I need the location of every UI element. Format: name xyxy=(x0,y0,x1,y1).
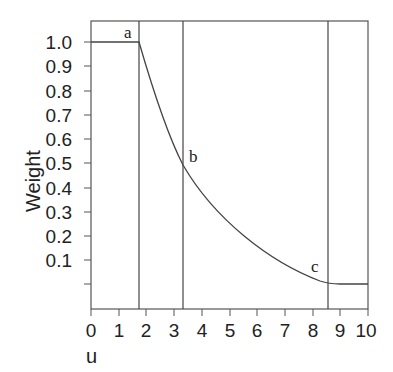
y-tick-label: 0.6 xyxy=(46,129,72,150)
x-tick-label: 3 xyxy=(169,320,180,341)
x-tick-label: 1 xyxy=(114,320,125,341)
x-tick-label: 2 xyxy=(141,320,152,341)
y-tick-label: 0.8 xyxy=(46,81,72,102)
x-tick-label: 8 xyxy=(308,320,319,341)
x-tick-label: 4 xyxy=(197,320,208,341)
y-tick-label: 0.1 xyxy=(46,250,72,271)
y-tick-label: 1.0 xyxy=(46,32,72,53)
y-tick-label: 0.5 xyxy=(46,153,72,174)
x-axis-title: u xyxy=(86,345,97,367)
x-tick-label: 6 xyxy=(252,320,263,341)
y-tick-label: 0.3 xyxy=(46,202,72,223)
y-axis: 1.0 0.9 0.8 0.7 0.6 0.5 0.4 0.3 0.2 0.1 … xyxy=(46,32,91,284)
x-tick-label: 9 xyxy=(335,320,346,341)
x-tick-label: 5 xyxy=(225,320,236,341)
x-tick-label: 0 xyxy=(86,320,97,341)
x-tick-label: 7 xyxy=(280,320,291,341)
point-label-c: c xyxy=(311,257,319,276)
x-axis: 0 1 2 3 4 5 6 7 8 9 10 xyxy=(86,309,377,341)
weight-curve xyxy=(91,42,368,284)
point-label-a: a xyxy=(124,23,132,42)
y-tick-label: 0.4 xyxy=(46,178,73,199)
y-tick-label: 0.9 xyxy=(46,56,72,77)
weight-chart: a b c 1.0 0.9 0.8 0.7 0.6 0.5 0.4 0.3 0.… xyxy=(0,0,393,372)
point-label-b: b xyxy=(189,147,198,166)
plot-frame xyxy=(91,21,368,309)
y-tick-label: 0.2 xyxy=(46,226,72,247)
y-axis-title: Weight xyxy=(22,150,44,212)
x-tick-label: 10 xyxy=(355,320,376,341)
y-tick-label: 0.7 xyxy=(46,105,72,126)
